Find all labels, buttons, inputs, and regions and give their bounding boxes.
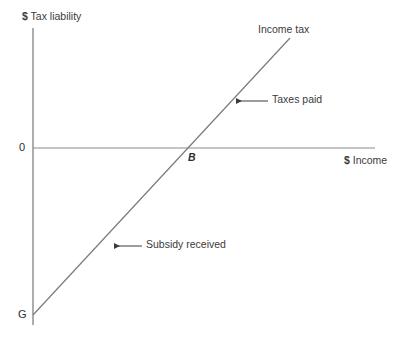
income-tax-line-label: Income tax [258,24,309,35]
y-axis-zero-tick-label: 0 [19,142,25,153]
tax-liability-diagram: $ Tax liability $ Income Income tax Taxe… [0,0,413,342]
plot-area [0,0,413,342]
point-b-label: B [188,152,196,163]
x-axis-label-text: Income [350,154,387,166]
subsidy-received-label: Subsidy received [146,239,226,250]
taxes-paid-label: Taxes paid [272,94,322,105]
y-axis-label: $ Tax liability [22,11,81,22]
x-axis-label: $ Income [344,155,387,166]
y-axis-label-text: Tax liability [28,10,82,22]
income-tax-line [33,38,290,315]
point-g-label: G [18,309,27,320]
